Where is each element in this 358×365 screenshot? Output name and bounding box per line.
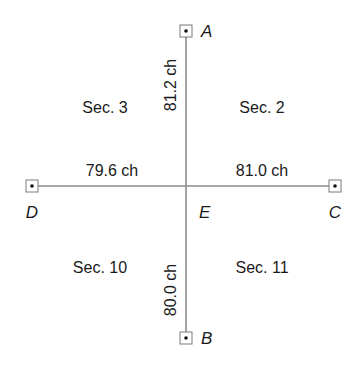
section-nw: Sec. 3 (82, 99, 127, 116)
point-label-e: E (199, 203, 211, 222)
distance-ed: 79.6 ch (86, 162, 138, 179)
marker-c-icon (329, 180, 341, 192)
section-sw: Sec. 10 (73, 259, 127, 276)
distance-ec: 81.0 ch (236, 162, 288, 179)
point-label-c: C (329, 203, 342, 222)
marker-b-icon (180, 332, 192, 344)
distance-eb: 80.0 ch (162, 264, 179, 316)
section-se: Sec. 11 (235, 259, 288, 276)
marker-a-icon (180, 25, 192, 37)
survey-diagram: A B C D E 79.6 ch 81.0 ch 81.2 ch 80.0 c… (0, 0, 358, 365)
marker-d-icon (26, 180, 38, 192)
point-label-d: D (26, 203, 38, 222)
point-label-a: A (200, 22, 212, 41)
point-label-b: B (201, 329, 212, 348)
section-ne: Sec. 2 (239, 99, 284, 116)
distance-ea: 81.2 ch (162, 59, 179, 111)
